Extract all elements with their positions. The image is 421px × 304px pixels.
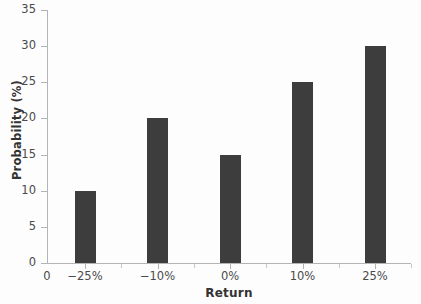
x-axis-minor-tick bbox=[266, 264, 267, 268]
x-axis-tick-label: −10% bbox=[118, 270, 198, 284]
y-axis-tick bbox=[41, 263, 47, 264]
y-axis-tick bbox=[41, 10, 47, 11]
x-axis-tick-label: 25% bbox=[335, 270, 415, 284]
y-axis-title: Probability (%) bbox=[10, 60, 24, 200]
y-axis-tick bbox=[41, 46, 47, 47]
y-axis-tick-label-text: 5 bbox=[0, 221, 36, 233]
bar bbox=[220, 155, 241, 263]
x-axis-tick-label-text: 0% bbox=[190, 270, 270, 283]
y-axis-tick bbox=[41, 82, 47, 83]
x-axis-tick-label-text: 25% bbox=[335, 270, 415, 283]
x-axis-minor-tick bbox=[411, 264, 412, 268]
y-axis-tick bbox=[41, 155, 47, 156]
y-axis-tick-label: 30 bbox=[0, 40, 36, 52]
y-axis-tick-label: 5 bbox=[0, 221, 36, 233]
x-axis-spine bbox=[47, 263, 411, 264]
x-axis-tick-label-text: −10% bbox=[118, 270, 198, 283]
y-axis-tick-label-text: 35 bbox=[0, 4, 36, 16]
x-axis-tick-label: 0% bbox=[190, 270, 270, 284]
y-axis-tick-label-text: 30 bbox=[0, 40, 36, 52]
y-axis-tick bbox=[41, 118, 47, 119]
bar-chart: 05101520253035 −25%−10%0%10%25% 0 Return… bbox=[0, 0, 421, 304]
x-axis-tick-label-text: 10% bbox=[263, 270, 343, 283]
bar bbox=[365, 46, 386, 263]
y-axis-tick bbox=[41, 191, 47, 192]
y-axis-spine bbox=[47, 10, 48, 264]
x-axis-tick-label: 10% bbox=[263, 270, 343, 284]
x-axis-title: Return bbox=[47, 286, 411, 300]
bar bbox=[292, 82, 313, 263]
y-axis-tick-label: 0 bbox=[0, 257, 36, 269]
x-axis-minor-tick bbox=[194, 264, 195, 268]
x-axis-minor-tick bbox=[121, 264, 122, 268]
x-axis-origin-label: 0 bbox=[33, 270, 61, 283]
x-axis-minor-tick bbox=[339, 264, 340, 268]
y-axis-tick bbox=[41, 227, 47, 228]
y-axis-tick-label-text: 0 bbox=[0, 257, 36, 269]
bar bbox=[75, 191, 96, 263]
bar bbox=[147, 118, 168, 263]
y-axis-tick-label: 35 bbox=[0, 4, 36, 16]
